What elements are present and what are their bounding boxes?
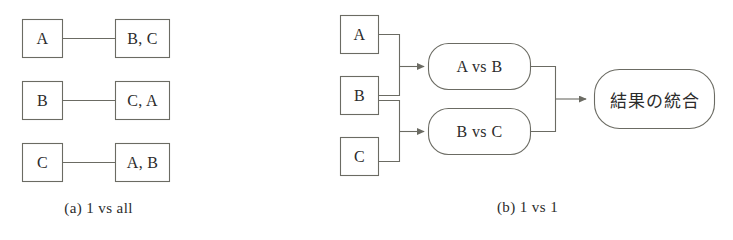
panel-b-bracket-bc	[379, 101, 400, 162]
panel-b-aggregator-label: 結果の統合	[594, 69, 715, 129]
panel-a-caption: (a) 1 vs all	[26, 197, 171, 219]
panel-a-target-label-3: A, B	[115, 143, 170, 182]
panel-b-caption: (b) 1 vs 1	[455, 196, 600, 218]
figure-root: A B, C B C, A C A, B (a) 1 vs all A B C …	[0, 0, 733, 240]
panel-b-comparator-label-bc: B vs C	[428, 108, 531, 155]
panel-b-bracket-ab	[379, 35, 400, 96]
panel-a-target-label-2: C, A	[115, 81, 170, 120]
panel-a-source-label-1: A	[22, 19, 63, 58]
panel-a-source-label-2: B	[22, 81, 63, 120]
panel-b-comparator-label-ab: A vs B	[428, 43, 531, 90]
panel-a-source-label-3: C	[22, 143, 63, 182]
panel-b-input-label-a: A	[340, 15, 379, 54]
panel-b-input-label-b: B	[340, 76, 379, 115]
panel-a-target-label-1: B, C	[115, 19, 170, 58]
panel-b-merge-bracket	[531, 67, 556, 132]
panel-b-input-label-c: C	[340, 137, 379, 176]
